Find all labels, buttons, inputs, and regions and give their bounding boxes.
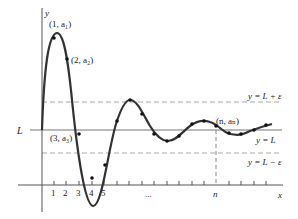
- x-tick-labels: 1 2 3 4 5: [51, 188, 106, 198]
- limit-left-label: L: [16, 125, 23, 136]
- sequence-limit-diagram: y x (1, a₁) (2, a₂) (3, a₃) (n, aₙ) L y …: [0, 0, 298, 219]
- point-label-2: (2, a₂): [71, 55, 93, 65]
- upper-epsilon-label: y = L + ε: [247, 91, 282, 101]
- svg-text:5: 5: [101, 188, 106, 198]
- point-label-1: (1, a₁): [49, 19, 71, 29]
- limit-right-label: y = L: [255, 135, 276, 145]
- x-axis-ellipsis: ...: [145, 189, 152, 199]
- svg-text:4: 4: [89, 188, 94, 198]
- svg-text:1: 1: [51, 188, 56, 198]
- y-axis-label: y: [44, 8, 49, 18]
- n-tick-label: n: [213, 189, 218, 199]
- x-axis-ticks: [54, 181, 266, 185]
- point-label-n: (n, aₙ): [216, 116, 239, 126]
- point-label-3: (3, a₃): [50, 133, 72, 143]
- svg-text:2: 2: [63, 188, 68, 198]
- x-axis-label: x: [277, 190, 282, 200]
- lower-epsilon-label: y = L − ε: [247, 157, 282, 167]
- svg-text:3: 3: [76, 188, 81, 198]
